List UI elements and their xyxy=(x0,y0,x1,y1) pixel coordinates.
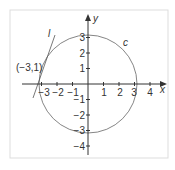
x-tick-label: 1 xyxy=(101,87,107,98)
x-tick-label: −3 xyxy=(38,87,50,98)
x-axis-label: x xyxy=(159,84,166,95)
x-tick-label: −2 xyxy=(52,87,64,98)
x-tick-label: 4 xyxy=(147,87,153,98)
coordinate-diagram: −3 −2 −1 1 2 3 4 3 2 1 −1 −2 −3 −4 x y c… xyxy=(0,0,175,170)
y-tick-label: 1 xyxy=(79,63,85,74)
y-axis-label: y xyxy=(92,13,99,24)
y-tick-label: −2 xyxy=(74,110,86,121)
y-tick-label: 2 xyxy=(79,48,85,59)
x-tick-label: 2 xyxy=(117,87,123,98)
y-tick-label: −3 xyxy=(74,125,86,136)
y-tick-label: −1 xyxy=(74,94,86,105)
circle-label: c xyxy=(123,37,128,48)
x-tick-label: 3 xyxy=(131,87,137,98)
y-tick-label: 3 xyxy=(79,32,85,43)
y-tick-label: −4 xyxy=(74,141,86,152)
tangent-point-label: (−3,1) xyxy=(16,62,42,73)
